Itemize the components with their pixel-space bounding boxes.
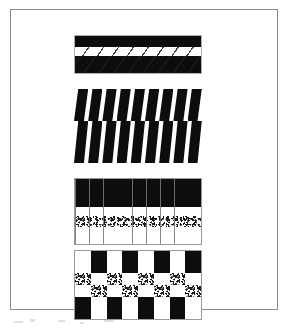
zigzag-segment-bottom: [88, 121, 102, 163]
checker-cell-white: [122, 273, 138, 285]
swatch-checkerboard: Checkerboard swatch with speckle rows: [74, 250, 202, 320]
checker-cell-black: [107, 297, 123, 319]
checker-cell-white: [107, 251, 123, 273]
checker-cell-white: [170, 251, 186, 273]
checker-cell-white: [75, 285, 91, 297]
zigzag-segment-top: [117, 89, 131, 121]
zigzag-segment-bottom: [188, 121, 202, 163]
column-grid-row-white-lower: [75, 227, 201, 245]
figure-frame: Banded twill swatch Sheared zigzag strip…: [10, 9, 278, 310]
zigzag-strip: [159, 89, 173, 163]
checker-cell-speckle: [154, 285, 170, 297]
zigzag-strip: [74, 89, 88, 163]
checker-cell-black: [91, 251, 107, 273]
zigzag-strip: [173, 89, 187, 163]
checker-cell-white: [122, 297, 138, 319]
checker-cell-black: [154, 251, 170, 273]
zigzag-segment-bottom: [131, 121, 145, 163]
zigzag-segment-bottom: [173, 121, 187, 163]
zigzag-strip: [102, 89, 116, 163]
zigzag-strip: [117, 89, 131, 163]
checker-cell-white: [185, 297, 201, 319]
swatch-column-grid: Column grid swatch with speckle band: [74, 178, 202, 245]
checker-cell-speckle: [138, 273, 154, 285]
checker-cell-speckle: [107, 273, 123, 285]
checker-cell-white: [91, 297, 107, 319]
zigzag-segment-bottom: [117, 121, 131, 163]
band-white-hatched: [75, 47, 201, 56]
zigzag-segment-bottom: [159, 121, 173, 163]
checker-cell-speckle: [91, 285, 107, 297]
zigzag-segment-top: [102, 89, 116, 121]
checker-cell-white: [185, 273, 201, 285]
checker-cell-black: [185, 251, 201, 273]
zigzag-segment-top: [88, 89, 102, 121]
band-black-top: [75, 36, 201, 47]
zigzag-strip: [145, 89, 159, 163]
zigzag-strip: [88, 89, 102, 163]
zigzag-segment-bottom: [145, 121, 159, 163]
checker-cell-black: [122, 251, 138, 273]
zigzag-strip: [188, 89, 202, 163]
zigzag-segment-bottom: [74, 121, 88, 163]
checker-cell-black: [170, 297, 186, 319]
column-grid-row-black: [75, 179, 201, 207]
checker-cell-white: [107, 285, 123, 297]
checker-cell-white: [138, 285, 154, 297]
zigzag-segment-top: [145, 89, 159, 121]
column-grid-row-white-upper: [75, 207, 201, 216]
checker-cell-white: [75, 251, 91, 273]
checker-cell-speckle: [122, 285, 138, 297]
checker-cell-white: [138, 251, 154, 273]
checker-cell-white: [170, 285, 186, 297]
zigzag-segment-top: [159, 89, 173, 121]
zigzag-segment-top: [131, 89, 145, 121]
figure-page: Banded twill swatch Sheared zigzag strip…: [0, 0, 291, 332]
checker-cell-black: [75, 297, 91, 319]
band-black-bottom: [75, 56, 201, 74]
checker-cell-speckle: [170, 273, 186, 285]
zigzag-segment-bottom: [102, 121, 116, 163]
swatch-banded-twill: Banded twill swatch: [74, 35, 202, 74]
zigzag-segment-top: [188, 89, 202, 121]
column-grid-row-speckle: [75, 216, 201, 227]
checker-cell-white: [91, 273, 107, 285]
checker-cell-white: [154, 273, 170, 285]
checker-cell-black: [138, 297, 154, 319]
zigzag-segment-top: [74, 89, 88, 121]
checker-cell-speckle: [75, 273, 91, 285]
checker-cell-white: [154, 297, 170, 319]
swatch-zigzag-strips: Sheared zigzag strip swatch: [74, 89, 202, 163]
checker-cell-speckle: [185, 285, 201, 297]
zigzag-strip: [131, 89, 145, 163]
zigzag-segment-top: [173, 89, 187, 121]
